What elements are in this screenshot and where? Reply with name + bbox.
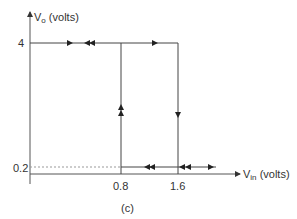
x-tick-0.8: 0.8 <box>113 180 128 192</box>
y-axis-label: Vo (volts) <box>34 11 79 25</box>
figure-caption: (c) <box>121 202 134 214</box>
y-tick-0.2: 0.2 <box>13 162 28 174</box>
x-axis-label: Vin (volts) <box>243 168 290 182</box>
hysteresis-diagram: Vo (volts) 4 0.2 0.8 1.6 Vin (volts) (c) <box>0 0 297 219</box>
y-tick-4: 4 <box>18 37 24 49</box>
diagram-canvas: Vo (volts) 4 0.2 0.8 1.6 Vin (volts) (c) <box>0 0 297 219</box>
x-tick-1.6: 1.6 <box>170 180 185 192</box>
arrow-icons <box>67 40 214 170</box>
